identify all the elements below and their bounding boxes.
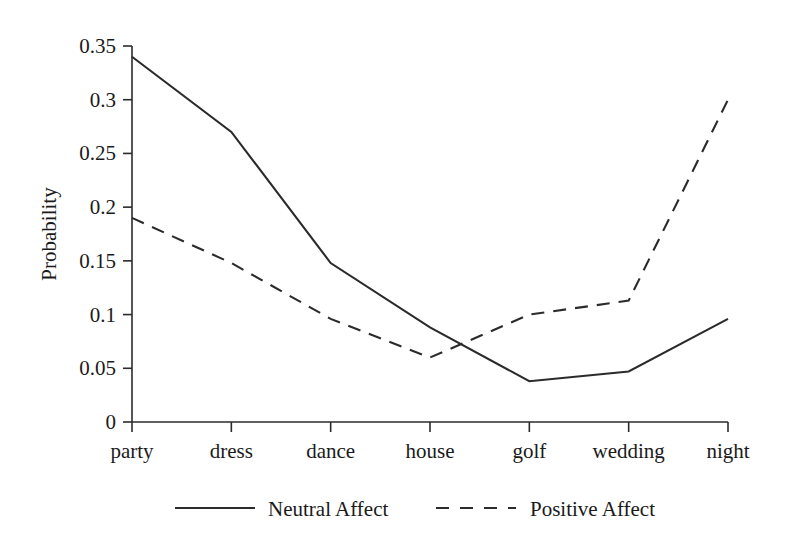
legend-item: Positive Affect	[436, 497, 655, 521]
x-tick-label: night	[706, 439, 749, 463]
y-tick-label: 0.35	[79, 34, 116, 58]
chart-legend: Neutral AffectPositive Affect	[175, 497, 655, 521]
chart-container: Probability 00.050.10.150.20.250.30.35 p…	[0, 0, 789, 550]
legend-label: Positive Affect	[530, 497, 655, 521]
y-axis-ticks: 00.050.10.150.20.250.30.35	[79, 34, 132, 434]
y-tick-label: 0.25	[79, 141, 116, 165]
y-tick-label: 0.3	[90, 88, 116, 112]
x-tick-label: golf	[512, 439, 546, 463]
x-tick-label: party	[110, 439, 154, 463]
y-tick-label: 0.1	[90, 303, 116, 327]
y-tick-label: 0.2	[90, 195, 116, 219]
x-tick-label: dress	[210, 439, 253, 463]
legend-label: Neutral Affect	[268, 497, 388, 521]
y-tick-label: 0.15	[79, 249, 116, 273]
series-group	[132, 57, 728, 381]
y-tick-label: 0.05	[79, 356, 116, 380]
x-tick-label: house	[406, 439, 455, 463]
y-tick-label: 0	[106, 410, 117, 434]
series-line-neutral-affect	[132, 57, 728, 381]
x-tick-label: dance	[306, 439, 355, 463]
series-line-positive-affect	[132, 100, 728, 358]
y-axis-title: Probability	[37, 187, 61, 281]
x-axis-ticks: partydressdancehousegolfweddingnight	[110, 422, 749, 463]
legend-item: Neutral Affect	[175, 497, 388, 521]
probability-line-chart: Probability 00.050.10.150.20.250.30.35 p…	[0, 0, 789, 550]
x-tick-label: wedding	[593, 439, 666, 463]
